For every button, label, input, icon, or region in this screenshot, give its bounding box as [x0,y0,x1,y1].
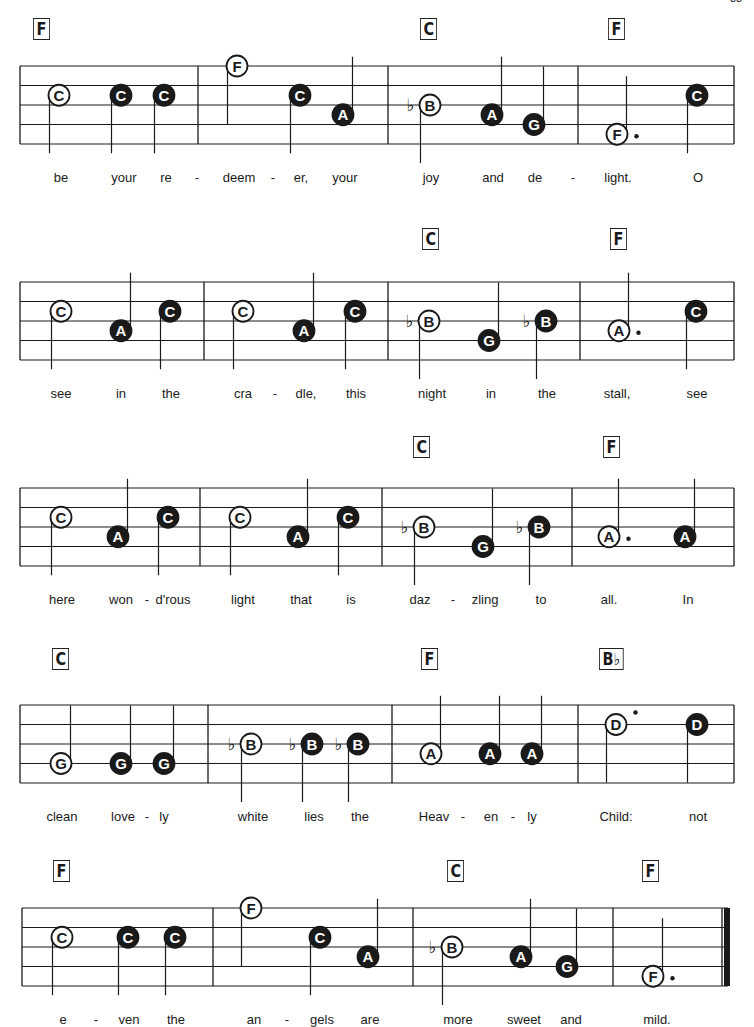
staff-system: CCCFCAB♭AGFFCFe-venthean-gelsaremoreswee… [0,860,754,1027]
lyric-syllable: see [687,386,708,401]
svg-text:C: C [159,87,170,104]
lyric-syllable: that [290,592,312,607]
lyric-syllable: lies [304,809,324,824]
lyric-syllable: here [49,592,75,607]
lyric-syllable: mild. [643,1012,670,1027]
lyric-syllable: daz [410,592,431,607]
page-number: 33 [730,0,742,4]
lyric-syllable: ly [159,809,168,824]
svg-text:G: G [477,538,489,555]
lyric-syllable: - [273,386,277,401]
svg-text:G: G [158,755,170,772]
flat-icon: ♭ [522,311,530,331]
svg-text:C: C [56,303,67,320]
svg-text:A: A [363,948,374,965]
svg-text:C: C [163,509,174,526]
lyric-syllable: sweet [507,1012,541,1027]
note-g: G [111,706,132,775]
svg-text:A: A [426,745,437,762]
lyric-syllable: - [571,170,575,185]
svg-text:C: C [235,509,246,526]
chord-symbol: F [603,436,620,458]
svg-text:C: C [315,929,326,946]
note-c: C [165,927,186,996]
svg-text:F: F [612,126,621,143]
lyric-syllable: the [538,386,556,401]
svg-text:C: C [691,303,702,320]
chord-symbol: F [608,18,625,40]
lyric-syllable: In [683,592,694,607]
staff-system: CACCACB♭GB♭AACFherewon-d'rouslightthatis… [0,436,754,626]
chord-symbol: F [33,18,50,40]
lyric-syllable: ven [119,1012,140,1027]
svg-text:B: B [353,736,364,753]
lyric-syllable: light [231,592,255,607]
note-a: A [111,273,132,342]
svg-text:B: B [307,736,318,753]
dot-icon [626,537,630,541]
svg-text:G: G [483,332,495,349]
svg-text:B: B [419,519,430,536]
chord-symbol: F [642,860,659,882]
lyric-syllable: Child: [599,809,632,824]
lyric-syllable: more [443,1012,473,1027]
note-b: B♭ [515,517,549,586]
lyric-syllable: your [111,170,136,185]
staff-system: GGGB♭B♭B♭AAADDCFB♭cleanlove-lywhiteliest… [0,648,754,838]
note-g: G [557,909,578,978]
note-d: D [687,714,708,783]
svg-text:C: C [123,929,134,946]
chord-symbol: F [53,860,70,882]
note-b: B♭ [227,734,261,803]
note-a: A [599,479,631,548]
dot-icon [634,134,638,138]
svg-text:C: C [116,87,127,104]
lyric-syllable: - [451,592,455,607]
lyric-syllable: - [271,170,275,185]
lyric-syllable: in [116,386,126,401]
note-b: B♭ [288,734,322,803]
svg-text:C: C [54,87,65,104]
lyric-syllable: the [162,386,180,401]
lyric-syllable: e [59,1012,66,1027]
note-c: C [310,927,331,996]
svg-text:A: A [680,528,691,545]
svg-text:B: B [534,519,545,536]
lyric-syllable: gels [310,1012,334,1027]
lyric-syllable: is [346,592,355,607]
note-a: A [511,899,532,968]
svg-text:C: C [165,303,176,320]
lyric-syllable: in [486,386,496,401]
note-a: A [482,57,503,126]
note-b: B♭ [400,517,434,586]
lyric-syllable: love [111,809,135,824]
chord-symbol: C [52,648,69,670]
note-c: C [158,507,179,576]
svg-text:G: G [115,755,127,772]
svg-text:B: B [246,736,257,753]
staff-system: CACCACB♭GB♭ACCFseeinthecra-dle,thisnight… [0,228,754,418]
flat-icon: ♭ [334,734,342,754]
lyric-syllable: and [560,1012,582,1027]
note-f: F [607,76,639,145]
note-c: C [49,85,70,154]
lyric-syllable: - [145,809,149,824]
lyric-syllable: - [145,592,149,607]
note-b: B♭ [522,311,556,380]
lyric-syllable: all. [601,592,618,607]
lyric-syllable: night [418,386,446,401]
note-b: B♭ [405,311,439,380]
dot-icon [636,331,640,335]
note-c: C [686,301,707,370]
lyric-syllable: - [511,809,515,824]
note-g: G [524,67,545,136]
dot-icon [633,710,637,714]
svg-text:A: A [113,528,124,545]
lyric-syllable: cra [234,386,252,401]
lyric-syllable: to [536,592,547,607]
lyric-syllable: - [285,1012,289,1027]
svg-text:F: F [648,968,657,985]
note-c: C [230,507,251,576]
lyric-syllable: d'rous [155,592,190,607]
svg-text:A: A [614,322,625,339]
